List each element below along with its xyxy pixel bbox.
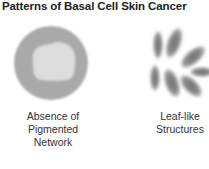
lesion-blob [33,42,76,81]
leaf-shape [162,26,186,61]
leaf-shape [153,31,163,59]
label-line: Pigmented [18,123,88,136]
absence-of-pigmented-network-figure [14,26,88,100]
leaf-shape [160,67,183,100]
leaf-like-structures-figure [150,26,209,101]
label-line: Leaf-like [150,110,209,123]
label-line: Network [18,136,88,149]
leaf-shape [150,65,160,91]
label-absence-of-pigmented-network: Absence of Pigmented Network [18,110,88,149]
label-line: Absence of [18,110,88,123]
leaf-shape [190,67,209,77]
label-leaf-like-structures: Leaf-like Structures [150,110,209,136]
label-line: Structures [150,123,209,136]
